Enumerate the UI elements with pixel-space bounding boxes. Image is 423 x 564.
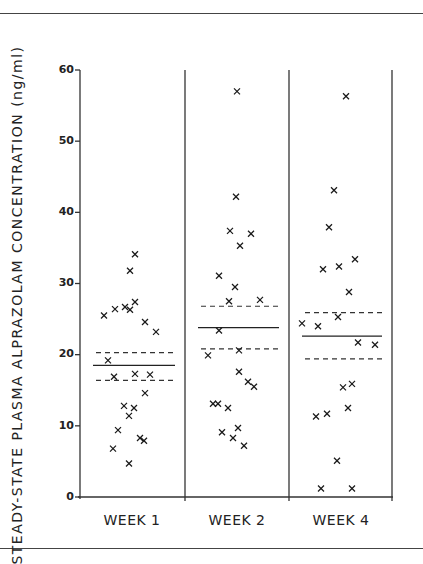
x-marker-icon xyxy=(147,372,153,378)
x-marker-icon xyxy=(336,263,342,269)
x-marker-icon xyxy=(234,88,240,94)
x-marker-icon xyxy=(235,425,241,431)
x-marker-icon xyxy=(299,320,305,326)
x-marker-icon xyxy=(315,323,321,329)
x-marker-icon xyxy=(127,268,133,274)
data-points xyxy=(101,88,378,491)
x-marker-icon xyxy=(121,403,127,409)
x-marker-icon xyxy=(227,228,233,234)
x-marker-icon xyxy=(142,319,148,325)
x-marker-icon xyxy=(153,329,159,335)
x-marker-icon xyxy=(126,413,132,419)
x-marker-icon xyxy=(132,251,138,257)
x-marker-icon xyxy=(141,438,147,444)
x-marker-icon xyxy=(226,298,232,304)
x-marker-icon xyxy=(346,289,352,295)
x-marker-icon xyxy=(326,224,332,230)
x-marker-icon xyxy=(257,297,263,303)
x-marker-icon xyxy=(131,405,137,411)
x-marker-icon xyxy=(245,379,251,385)
x-marker-icon xyxy=(248,231,254,237)
x-marker-icon xyxy=(137,435,143,441)
x-marker-icon xyxy=(236,347,242,353)
x-marker-icon xyxy=(132,371,138,377)
x-marker-icon xyxy=(115,427,121,433)
x-marker-icon xyxy=(334,458,340,464)
x-marker-icon xyxy=(320,266,326,272)
x-marker-icon xyxy=(232,284,238,290)
x-marker-icon xyxy=(237,243,243,249)
x-marker-icon xyxy=(205,352,211,358)
category-label-week-1: WEEK 1 xyxy=(80,512,184,528)
x-marker-icon xyxy=(219,429,225,435)
x-marker-icon xyxy=(230,435,236,441)
x-marker-icon xyxy=(110,446,116,452)
x-marker-icon xyxy=(101,313,107,319)
x-marker-icon xyxy=(324,411,330,417)
x-marker-icon xyxy=(313,414,319,420)
x-marker-icon xyxy=(112,306,118,312)
x-marker-icon xyxy=(251,384,257,390)
x-marker-icon xyxy=(331,187,337,193)
category-label-week-4: WEEK 4 xyxy=(289,512,393,528)
x-marker-icon xyxy=(216,273,222,279)
x-marker-icon xyxy=(233,194,239,200)
category-label-week-2: WEEK 2 xyxy=(185,512,289,528)
x-marker-icon xyxy=(215,401,221,407)
x-marker-icon xyxy=(318,485,324,491)
x-marker-icon xyxy=(349,485,355,491)
x-marker-icon xyxy=(355,340,361,346)
x-marker-icon xyxy=(372,342,378,348)
x-marker-icon xyxy=(349,381,355,387)
x-marker-icon xyxy=(352,256,358,262)
x-marker-icon xyxy=(111,374,117,380)
x-marker-icon xyxy=(340,384,346,390)
x-marker-icon xyxy=(345,405,351,411)
x-marker-icon xyxy=(105,357,111,363)
x-marker-icon xyxy=(132,299,138,305)
x-marker-icon xyxy=(241,443,247,449)
x-marker-icon xyxy=(236,369,242,375)
scatter-plot xyxy=(0,0,423,564)
x-marker-icon xyxy=(225,405,231,411)
x-marker-icon xyxy=(126,461,132,467)
x-marker-icon xyxy=(335,314,341,320)
x-marker-icon xyxy=(142,390,148,396)
x-marker-icon xyxy=(216,327,222,333)
x-marker-icon xyxy=(343,93,349,99)
